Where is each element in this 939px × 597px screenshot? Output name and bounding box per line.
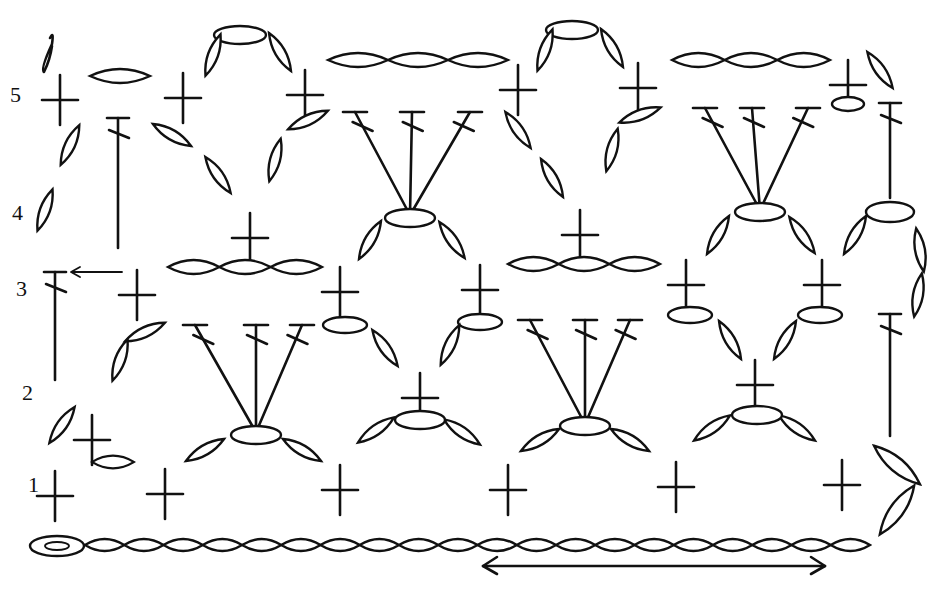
single-crochet-icon: [668, 260, 704, 310]
row-label-1: 1: [28, 472, 39, 497]
chain-stitch-icon: [777, 53, 830, 67]
single-crochet-icon: [462, 265, 498, 315]
stitch-diagram: 1 2 3 4 5: [0, 0, 939, 597]
repeat-arrow-icon: [483, 557, 825, 574]
chain-stitch-icon: [792, 539, 831, 551]
single-crochet-icon: [824, 460, 860, 510]
single-crochet-icon: [658, 462, 694, 512]
single-crochet-icon: [322, 465, 358, 515]
chain-stitch-icon: [242, 539, 281, 551]
row-label-3: 3: [16, 276, 27, 301]
chain-stitch-icon: [674, 539, 713, 551]
dc-fan-icon: [693, 108, 820, 205]
single-crochet-icon: [147, 469, 183, 519]
single-crochet-icon: [42, 75, 78, 125]
chain-stitch-icon: [752, 539, 791, 551]
chain-stitch-icon: [713, 539, 752, 551]
dc-fan-icon: [343, 112, 482, 210]
dc-fan-icon: [518, 320, 642, 419]
chain-stitch-icon: [399, 539, 438, 551]
single-crochet-icon: [804, 260, 840, 310]
single-crochet-icon: [165, 73, 201, 123]
double-crochet-icon: [879, 103, 901, 198]
single-crochet-icon: [490, 465, 526, 515]
chain-stitch-icon: [478, 539, 517, 551]
single-crochet-icon: [119, 270, 155, 320]
chain-stitch-icon: [164, 539, 203, 551]
row-label-4: 4: [12, 200, 23, 225]
chain-stitch-icon: [388, 53, 448, 67]
row-label-5: 5: [10, 82, 21, 107]
chain-stitch-icon: [635, 539, 674, 551]
chain-stitch-icon: [281, 539, 320, 551]
row-labels: 1 2 3 4 5: [10, 82, 39, 497]
chain-stitch-icon: [725, 53, 778, 67]
single-crochet-icon: [737, 360, 773, 410]
chain-stitch-icon: [559, 257, 610, 271]
row5-arches: [201, 21, 628, 77]
double-crochet-icon: [44, 272, 66, 380]
chain-stitch-icon: [328, 53, 388, 67]
single-crochet-icon: [562, 210, 598, 260]
chain-groups: [168, 53, 830, 274]
single-crochet-icon: [232, 213, 268, 263]
chain-stitch-icon: [438, 539, 477, 551]
start-mark-icon: [43, 35, 53, 72]
chain-stitch-icon: [831, 539, 870, 551]
chain-stitch-icon: [321, 539, 360, 551]
chain-stitch-icon: [203, 539, 242, 551]
chain-stitch-icon: [271, 260, 322, 274]
chain-stitch-icon: [556, 539, 595, 551]
chain-stitch-icon: [448, 53, 508, 67]
chain-stitch-icon: [124, 539, 163, 551]
turn-arrow-icon: [71, 267, 122, 277]
chain-stitch-icon: [360, 539, 399, 551]
chain-stitch-icon: [672, 53, 725, 67]
chain-stitch-icon: [517, 539, 556, 551]
crochet-chart: 1 2 3 4 5: [0, 0, 939, 597]
chain-stitch-icon: [168, 260, 219, 274]
single-crochet-icon: [500, 65, 536, 115]
single-crochet-icon: [322, 267, 358, 317]
double-crochet-icon: [879, 314, 901, 436]
chain-stitch-icon: [508, 257, 559, 271]
chain-stitch-icon: [85, 539, 124, 551]
double-crochet-icon: [107, 118, 129, 248]
single-crochet-icon: [37, 471, 73, 521]
single-crochet-icon: [620, 63, 656, 113]
chain-stitch-icon: [219, 260, 270, 274]
chain-stitch-icon: [595, 539, 634, 551]
row-label-2: 2: [22, 380, 33, 405]
dc-fan-icon: [183, 325, 314, 427]
chain-stitch-icon: [609, 257, 660, 271]
